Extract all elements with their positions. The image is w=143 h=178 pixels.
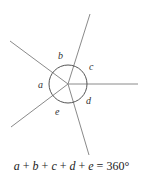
angle-label-d: d: [86, 95, 92, 106]
eq-plus: +: [20, 159, 33, 173]
ray-top: [68, 14, 90, 84]
eq-plus: +: [39, 159, 52, 173]
rays: [10, 14, 138, 155]
eq-plus: +: [75, 159, 88, 173]
angle-label-c: c: [89, 61, 94, 72]
eq-total: 360°: [106, 159, 129, 173]
angle-label-e: e: [55, 106, 60, 117]
eq-equals: =: [94, 159, 107, 173]
angles-around-point-diagram: a b c d e: [0, 0, 143, 178]
angle-sum-equation: a + b + c + d + e = 360°: [0, 159, 143, 174]
angle-label-a: a: [38, 79, 43, 90]
angle-label-b: b: [58, 50, 63, 61]
eq-plus: +: [57, 159, 70, 173]
ray-upper-left: [10, 41, 68, 84]
